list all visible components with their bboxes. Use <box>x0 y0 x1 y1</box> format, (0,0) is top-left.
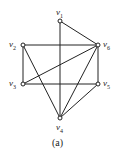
node-label-v4-sub: 4 <box>60 128 63 134</box>
node-label-v1: v1 <box>56 8 63 19</box>
node-label-v5: v5 <box>103 79 110 90</box>
graph-edges <box>23 21 98 118</box>
node-label-v3-sub: 3 <box>13 84 16 90</box>
node-v1 <box>58 19 62 23</box>
node-v4 <box>58 116 62 120</box>
node-label-v3: v3 <box>9 79 16 90</box>
node-label-v4: v4 <box>56 123 63 134</box>
node-label-v6: v6 <box>103 40 110 51</box>
node-v6 <box>96 43 100 47</box>
node-label-v6-sub: 6 <box>107 45 110 51</box>
edge-v6-v4 <box>60 45 98 118</box>
node-v2 <box>21 43 25 47</box>
node-label-v5-sub: 5 <box>107 84 110 90</box>
node-v5 <box>96 82 100 86</box>
node-label-v2-sub: 2 <box>13 45 16 51</box>
figure-caption: (a) <box>52 138 63 148</box>
node-label-v2: v2 <box>9 40 16 51</box>
edge-v1-v6 <box>60 21 98 45</box>
edge-v5-v4 <box>60 84 98 118</box>
graph-canvas <box>0 0 117 158</box>
node-label-v1-sub: 1 <box>60 13 63 19</box>
node-v3 <box>21 82 25 86</box>
